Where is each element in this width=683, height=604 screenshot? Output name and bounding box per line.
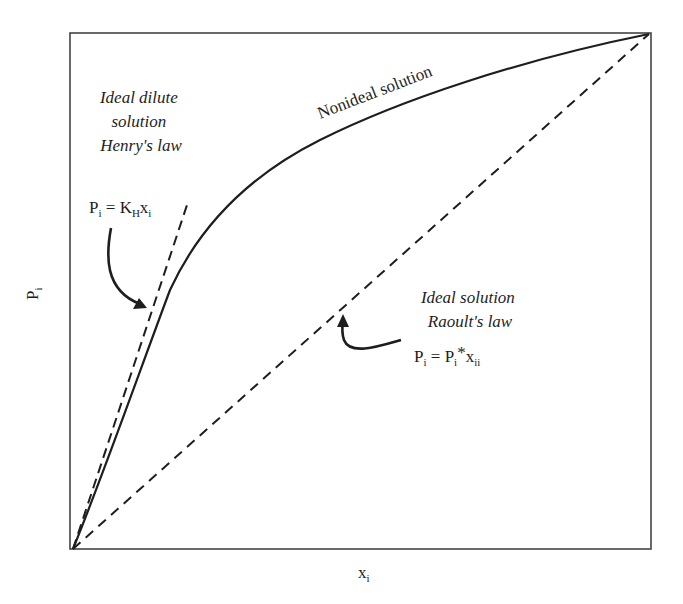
- nonideal-label: Nonideal solution: [315, 61, 436, 122]
- diagram-canvas: Nonideal solution Ideal dilute solution …: [0, 0, 683, 604]
- raoult-title: Ideal solution Raoult's law: [420, 288, 519, 331]
- raoult-arrow-icon: [337, 314, 401, 349]
- x-axis-label: xi: [358, 563, 370, 584]
- henry-equation: Pi = KHxi: [89, 198, 151, 219]
- henry-title: Ideal dilute solution Henry's law: [99, 88, 183, 155]
- raoult-equation: Pi = Pi*xii: [414, 343, 480, 368]
- diagram-figure: Nonideal solution Ideal dilute solution …: [0, 0, 683, 604]
- plot-frame: [70, 33, 651, 549]
- henry-arrow-icon: [108, 228, 147, 309]
- y-axis-label: Pi: [23, 287, 44, 300]
